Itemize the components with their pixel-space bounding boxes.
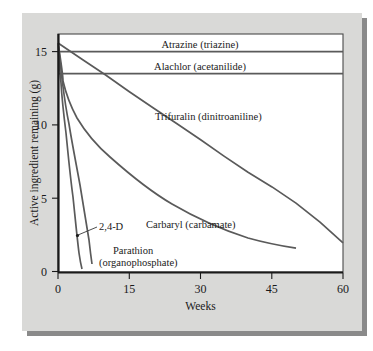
series-label-alachlor: Alachlor (acetanilide) xyxy=(154,61,246,73)
x-tick-label-45: 45 xyxy=(266,282,278,296)
series-label-parathion-line1: Parathion xyxy=(113,245,154,256)
figure-root: 15 10 5 0 0 15 30 45 60 Weeks Active ing… xyxy=(0,0,373,351)
y-tick-label-0: 0 xyxy=(41,265,47,279)
x-tick-label-15: 15 xyxy=(123,282,135,296)
series-label-atrazine: Atrazine (triazine) xyxy=(161,39,239,51)
y-tick-label-15: 15 xyxy=(35,45,47,59)
chart-container: 15 10 5 0 0 15 30 45 60 Weeks Active ing… xyxy=(0,0,373,351)
x-axis-title: Weeks xyxy=(185,300,216,312)
series-label-24d: 2,4-D xyxy=(99,221,124,232)
series-label-trifuralin: Trifuralin (dinitroaniline) xyxy=(155,111,262,123)
y-tick-label-5: 5 xyxy=(41,192,47,206)
series-label-carbaryl: Carbaryl (carbamate) xyxy=(146,219,236,231)
x-tick-label-0: 0 xyxy=(55,282,61,296)
y-axis-title: Active ingredient remaining (g) xyxy=(28,80,41,226)
line-chart: 15 10 5 0 0 15 30 45 60 Weeks Active ing… xyxy=(0,0,373,351)
x-tick-label-30: 30 xyxy=(195,282,207,296)
annotation-leader-dot-24d xyxy=(76,234,79,237)
series-label-parathion-line2: (organophosphate) xyxy=(99,257,178,269)
x-tick-label-60: 60 xyxy=(337,282,349,296)
